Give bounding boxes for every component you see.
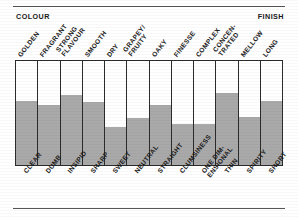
positive-label-5: GRAPEY/ FRUITY bbox=[122, 24, 153, 58]
positive-label-4: DRY bbox=[105, 42, 120, 58]
finish-caption: FINISH bbox=[258, 12, 284, 21]
positive-label-6: OAKY bbox=[150, 37, 168, 58]
bottom-divider-rule bbox=[13, 208, 285, 209]
positive-label-11: LONG bbox=[262, 37, 280, 58]
positive-label-0: GOLDEN bbox=[16, 30, 40, 58]
bar-column[interactable] bbox=[61, 61, 83, 165]
bar-column[interactable] bbox=[38, 61, 60, 165]
top-divider-rule bbox=[13, 6, 285, 7]
colour-caption: COLOUR bbox=[16, 12, 50, 21]
bar-column[interactable] bbox=[239, 61, 261, 165]
bar-column[interactable] bbox=[16, 61, 38, 165]
bar-column[interactable] bbox=[83, 61, 105, 165]
bar-column[interactable] bbox=[127, 61, 149, 165]
bar-column[interactable] bbox=[105, 61, 127, 165]
